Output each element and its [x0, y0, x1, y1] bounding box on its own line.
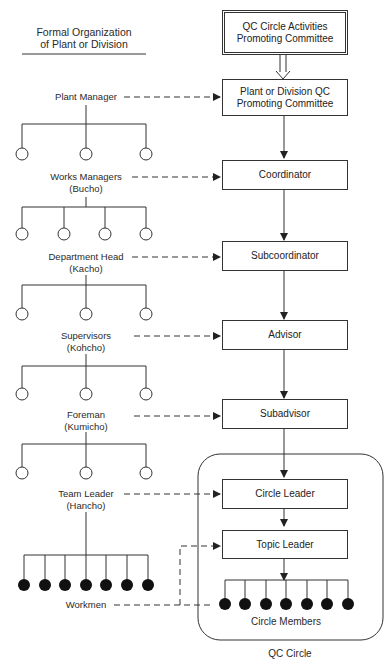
box-line2: Promoting Committee — [237, 33, 334, 45]
subcoordinator-box: Subcoordinator — [222, 241, 348, 271]
level-sub: (Bucho) — [36, 183, 136, 195]
works-managers-label: Works Managers (Bucho) — [36, 171, 136, 195]
formal-org-title-line2: of Plant or Division — [14, 38, 154, 50]
topic-leader-box: Topic Leader — [222, 530, 348, 559]
foreman-label: Foreman (Kumicho) — [36, 409, 136, 433]
level-sub: (Kacho) — [36, 263, 136, 275]
level-name: Foreman — [36, 409, 136, 421]
level-name: Plant Manager — [36, 91, 136, 103]
level-name: Team Leader — [36, 488, 136, 500]
qc-circle-activities-committee-box: QC Circle Activities Promoting Committee — [222, 10, 348, 55]
formal-org-title: Formal Organization of Plant or Division — [14, 26, 154, 50]
advisor-box: Advisor — [222, 320, 348, 350]
level-name: Works Managers — [36, 171, 136, 183]
level-sub: (Kumicho) — [36, 421, 136, 433]
circle-members-label: Circle Members — [236, 616, 336, 628]
level-sub: (Kohcho) — [36, 342, 136, 354]
level-sub: (Hancho) — [36, 500, 136, 512]
box-line2: Promoting Committee — [237, 98, 334, 110]
qc-circle-label: QC Circle — [250, 648, 330, 660]
level-name: Supervisors — [36, 330, 136, 342]
level-name: Department Head — [36, 251, 136, 263]
coordinator-box: Coordinator — [222, 160, 348, 190]
box-line1: Plant or Division QC — [240, 86, 330, 98]
plant-manager-label: Plant Manager — [36, 91, 136, 103]
plant-qc-committee-box: Plant or Division QC Promoting Committee — [222, 79, 348, 116]
team-leader-label: Team Leader (Hancho) — [36, 488, 136, 512]
workmen-label: Workmen — [60, 599, 112, 611]
circle-leader-box: Circle Leader — [222, 479, 348, 509]
box-line1: QC Circle Activities — [242, 21, 327, 33]
subadvisor-box: Subadvisor — [222, 399, 348, 429]
supervisors-label: Supervisors (Kohcho) — [36, 330, 136, 354]
formal-org-title-line1: Formal Organization — [14, 26, 154, 38]
department-head-label: Department Head (Kacho) — [36, 251, 136, 275]
